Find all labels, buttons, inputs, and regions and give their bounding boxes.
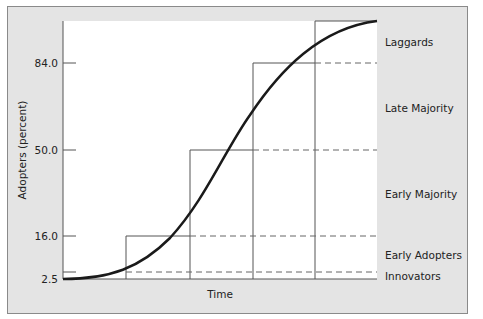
- y-tick-2-5: 2.5: [41, 273, 58, 285]
- label-laggards: Laggards: [385, 36, 433, 48]
- label-innovators: Innovators: [385, 270, 441, 282]
- x-axis-title: Time: [206, 288, 233, 300]
- y-tick-84: 84.0: [35, 57, 58, 69]
- label-late-majority: Late Majority: [385, 102, 454, 114]
- label-early-adopters: Early Adopters: [385, 249, 462, 261]
- label-early-majority: Early Majority: [385, 188, 457, 200]
- y-tick-16: 16.0: [35, 230, 58, 242]
- y-axis-title: Adopters (percent): [16, 101, 28, 200]
- y-tick-50: 50.0: [35, 144, 58, 156]
- diffusion-chart: 84.0 50.0 16.0 2.5 Laggards Late Majorit…: [0, 0, 483, 319]
